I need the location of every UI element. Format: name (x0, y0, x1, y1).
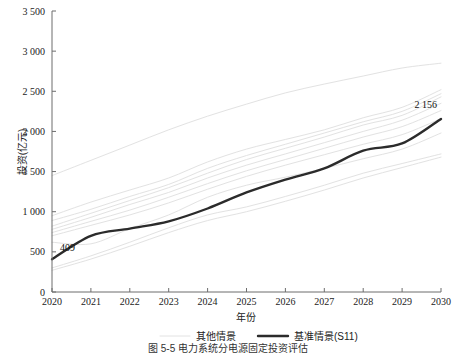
series-line-other (52, 103, 441, 229)
y-tick-label: 3 000 (23, 46, 46, 57)
x-tick-label: 2024 (198, 296, 218, 307)
x-tick-label: 2030 (431, 296, 451, 307)
series-line-other (52, 111, 441, 233)
x-tick-label: 2020 (42, 296, 62, 307)
series-line-other (52, 157, 441, 270)
x-tick-label: 2026 (275, 296, 295, 307)
series-line-other (52, 133, 441, 245)
x-tick-labels: 2020202120222023202420252026202720282029… (42, 296, 451, 307)
y-axis-title: 投资(亿元) (16, 129, 28, 176)
data-point-label: 409 (60, 242, 75, 253)
y-tick-label: 500 (30, 246, 45, 257)
x-tick-label: 2023 (159, 296, 179, 307)
legend-label-other-scenario: 其他情景 (196, 330, 236, 342)
y-tick-label: 1 000 (23, 206, 46, 217)
x-tick-label: 2027 (314, 296, 334, 307)
data-point-label: 2 156 (415, 99, 438, 110)
x-tick-label: 2029 (392, 296, 412, 307)
x-tick-label: 2022 (120, 296, 140, 307)
x-axis-title: 年份 (236, 311, 256, 323)
x-tick-label: 2025 (237, 296, 257, 307)
series-line-other (52, 63, 441, 175)
figure-caption: 图 5-5 电力系统分电源固定投资评估 (148, 342, 308, 353)
series-group (52, 63, 441, 270)
x-tick-label: 2021 (81, 296, 101, 307)
series-line-other (52, 119, 441, 236)
y-tick-label: 3 500 (23, 6, 46, 17)
chart-figure: 05001 0001 5002 0002 5003 0003 500 20202… (0, 0, 455, 353)
axis-ticks-group (52, 11, 441, 292)
x-tick-label: 2028 (353, 296, 373, 307)
chart-legend: 其他情景 基准情景(S11) (160, 330, 358, 342)
axis-lines-group (52, 11, 441, 292)
y-tick-label: 2 500 (23, 86, 46, 97)
investment-line-chart: 05001 0001 5002 0002 5003 0003 500 20202… (0, 0, 455, 353)
legend-label-baseline-scenario: 基准情景(S11) (294, 330, 358, 342)
